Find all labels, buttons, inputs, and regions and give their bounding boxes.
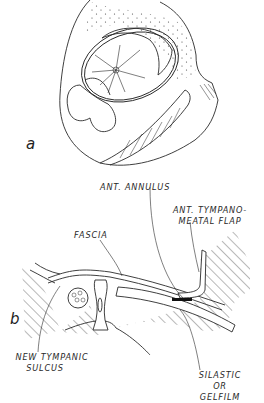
panel-a-letter: a bbox=[26, 135, 35, 153]
label-ant-tympanomeatal-flap-line1: ANT. TYMPANO- bbox=[160, 205, 260, 215]
label-fascia: FASCIA bbox=[74, 230, 108, 240]
label-ant-tympanomeatal-flap-line2: MEATAL FLAP bbox=[160, 216, 260, 226]
label-new-tympanic-sulcus-line1: NEW TYMPANIC bbox=[0, 352, 104, 362]
label-silastic-line3: GELFILM bbox=[180, 392, 260, 402]
label-ant-annulus: ANT. ANNULUS bbox=[100, 182, 170, 192]
panel-a-drawing bbox=[60, 0, 218, 165]
label-new-tympanic-sulcus-line2: SULCUS bbox=[0, 363, 90, 373]
label-silastic-line2: OR bbox=[180, 381, 260, 391]
panel-b-letter: b bbox=[10, 310, 20, 328]
illustration bbox=[0, 0, 264, 403]
label-silastic-line1: SILASTIC bbox=[180, 370, 260, 380]
